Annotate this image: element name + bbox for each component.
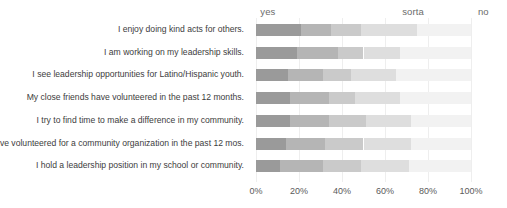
bar-segment-yes-mild bbox=[286, 138, 325, 150]
gridline-100% bbox=[471, 18, 472, 182]
bar-segment-yes-mild bbox=[297, 47, 338, 59]
bar-row bbox=[256, 69, 471, 81]
category-label: I see leadership opportunities for Latin… bbox=[32, 68, 244, 80]
bar-segment-no bbox=[411, 115, 471, 127]
bar-layer bbox=[256, 0, 471, 208]
category-label: I hold a leadership position in my schoo… bbox=[36, 159, 244, 171]
bar-segment-sorta-light bbox=[364, 138, 411, 150]
bar-row bbox=[256, 92, 471, 104]
x-tick-60%: 60% bbox=[376, 186, 394, 196]
category-label-layer: I enjoy doing kind acts for others.I am … bbox=[0, 0, 250, 208]
bar-segment-yes-mild bbox=[301, 24, 331, 36]
bar-segment-no bbox=[411, 138, 471, 150]
bar-row bbox=[256, 115, 471, 127]
category-label: My close friends have volunteered in the… bbox=[27, 91, 244, 103]
bar-segment-yes-mild bbox=[288, 69, 322, 81]
bar-segment-no bbox=[409, 160, 471, 172]
bar-segment-yes-mild bbox=[290, 115, 329, 127]
bar-segment-sorta-mild bbox=[323, 69, 351, 81]
bar-segment-sorta-light bbox=[366, 115, 411, 127]
bar-row bbox=[256, 24, 471, 36]
bar-segment-sorta-light bbox=[361, 160, 408, 172]
bar-segment-no bbox=[396, 69, 471, 81]
bar-segment-sorta-mild bbox=[331, 24, 361, 36]
category-label: I have volunteered for a community organ… bbox=[0, 137, 244, 149]
bar-segment-yes-strong bbox=[256, 92, 290, 104]
stacked-bar-chart: yessortano I enjoy doing kind acts for o… bbox=[0, 0, 507, 208]
bar-segment-sorta-light bbox=[361, 24, 417, 36]
category-label: I am working on my leadership skills. bbox=[104, 46, 244, 58]
bar-segment-no bbox=[400, 92, 471, 104]
bar-segment-yes-strong bbox=[256, 47, 297, 59]
category-label: I try to find time to make a difference … bbox=[37, 114, 244, 126]
bar-segment-no bbox=[400, 47, 471, 59]
bar-row bbox=[256, 160, 471, 172]
bar-segment-sorta-mild bbox=[329, 92, 355, 104]
bar-segment-no bbox=[417, 24, 471, 36]
bar-segment-yes-strong bbox=[256, 160, 280, 172]
x-tick-40%: 40% bbox=[333, 186, 351, 196]
bar-segment-sorta-light bbox=[364, 47, 401, 59]
bar-segment-yes-mild bbox=[280, 160, 323, 172]
x-tick-100%: 100% bbox=[459, 186, 482, 196]
x-axis: 0%20%40%60%80%100% bbox=[256, 186, 471, 202]
x-tick-80%: 80% bbox=[419, 186, 437, 196]
bar-segment-sorta-light bbox=[351, 69, 396, 81]
bar-segment-sorta-mild bbox=[338, 47, 364, 59]
bar-segment-yes-strong bbox=[256, 69, 288, 81]
category-label: I enjoy doing kind acts for others. bbox=[118, 23, 244, 35]
bar-segment-yes-strong bbox=[256, 24, 301, 36]
bar-row bbox=[256, 138, 471, 150]
bar-segment-sorta-light bbox=[355, 92, 400, 104]
x-tick-20%: 20% bbox=[290, 186, 308, 196]
bar-row bbox=[256, 47, 471, 59]
bar-segment-sorta-mild bbox=[329, 115, 366, 127]
group-header-no: no bbox=[478, 6, 489, 17]
bar-segment-sorta-mild bbox=[325, 138, 364, 150]
bar-segment-yes-strong bbox=[256, 115, 290, 127]
x-tick-0%: 0% bbox=[249, 186, 262, 196]
bar-segment-sorta-mild bbox=[323, 160, 362, 172]
bar-segment-yes-mild bbox=[290, 92, 329, 104]
bar-segment-yes-strong bbox=[256, 138, 286, 150]
